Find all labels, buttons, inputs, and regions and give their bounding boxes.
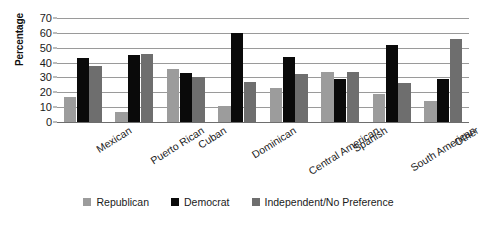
bar [398,83,410,122]
legend-item-independent[interactable]: Independent/No Preference [252,196,394,208]
plot-area: 010203040506070 [57,18,469,122]
y-tick-label-50: 50 [40,42,52,53]
legend-label: Independent/No Preference [265,196,394,208]
legend-item-republican[interactable]: Republican [83,196,149,208]
legend-item-democrat[interactable]: Democrat [171,196,230,208]
bar-group [321,18,359,122]
legend-label: Republican [96,196,149,208]
bar [373,94,385,122]
bar [128,55,140,122]
bar-group [167,18,205,122]
bar [244,82,256,122]
category-label: Dominican [250,124,298,160]
bar-group [270,18,308,122]
bar [192,77,204,122]
chart-legend: RepublicanDemocratIndependent/No Prefere… [0,196,477,208]
bar-group [115,18,153,122]
legend-swatch-icon [83,198,91,206]
bar [295,74,307,122]
bar [283,57,295,122]
y-tick-label-60: 60 [40,27,52,38]
category-label: Other [452,124,481,148]
legend-swatch-icon [252,198,260,206]
y-axis-title: Percentage [14,0,25,85]
bar [231,33,243,122]
bar [141,54,153,122]
bar [167,69,179,122]
y-tick-label-30: 30 [40,72,52,83]
bar [89,66,101,122]
y-tick-label-70: 70 [40,13,52,24]
bar [180,73,192,122]
bar-group [218,18,256,122]
y-tick-label-10: 10 [40,102,52,113]
bar [437,79,449,122]
bar [64,97,76,122]
gridline-0 [57,122,469,123]
bar [218,106,230,122]
y-tick-label-20: 20 [40,87,52,98]
bar [386,45,398,122]
y-tick-label-0: 0 [46,117,52,128]
bar-group [424,18,462,122]
y-tick-label-40: 40 [40,57,52,68]
bar [424,101,436,122]
bar [334,79,346,122]
bar [115,112,127,122]
category-label: Mexican [94,124,134,155]
legend-label: Democrat [184,196,230,208]
bar [77,58,89,122]
legend-swatch-icon [171,198,179,206]
bar [450,39,462,122]
bar-group [64,18,102,122]
bar-group [373,18,411,122]
bar [347,72,359,123]
bars-layer [57,18,469,122]
category-axis-labels: MexicanPuerto RicanCubanDominicanCentral… [57,124,469,190]
bar [270,88,282,122]
bar [321,72,333,123]
